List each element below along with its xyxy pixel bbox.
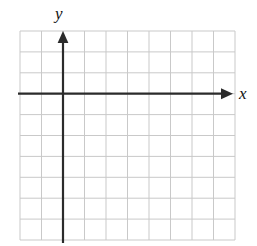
axes bbox=[18, 31, 233, 243]
y-axis-arrowhead-icon bbox=[58, 31, 69, 43]
grid-lines bbox=[20, 31, 235, 240]
x-axis-arrowhead-icon bbox=[221, 88, 233, 99]
y-axis-label: y bbox=[55, 5, 63, 22]
coordinate-plane-svg bbox=[0, 0, 257, 246]
coordinate-grid-figure: y x bbox=[0, 0, 257, 246]
x-axis-label: x bbox=[239, 85, 247, 102]
